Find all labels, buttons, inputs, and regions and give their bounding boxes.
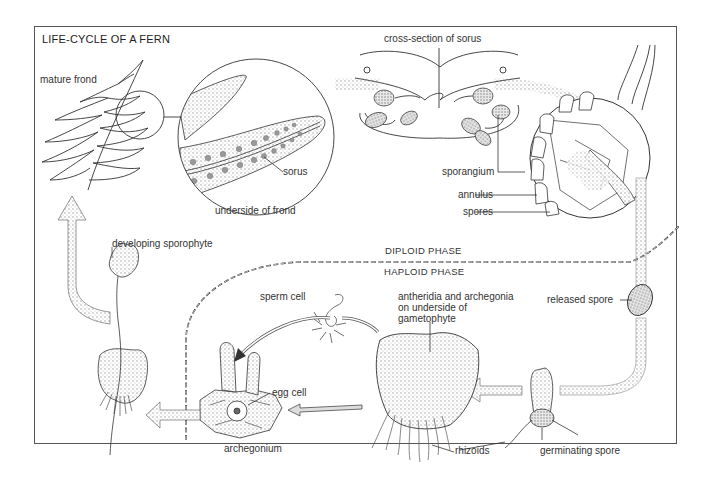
gametophyte-drawing [372,322,479,462]
label-egg-cell: egg cell [272,387,306,398]
germinating-spore-drawing [505,368,578,448]
connector-band [335,78,380,90]
label-released-spore: released spore [547,294,613,305]
arrow-to-sporophyte [146,402,200,428]
fern-lifecycle-illustration [0,0,712,483]
connector-band-vertical [636,178,646,288]
label-antheridia-line3: gametophyte [398,313,456,324]
arrow-to-mature-frond [58,196,110,324]
label-cross-section-of-sorus: cross-section of sorus [384,33,481,44]
label-sperm-cell: sperm cell [260,291,306,302]
label-underside-of-frond: underside of frond [215,205,296,216]
label-diploid-phase: DIPLOID PHASE [385,245,462,256]
young-sporophyte-drawing [98,244,147,455]
label-antheridia-line2: on underside of [398,302,467,313]
label-germinating-spore: germinating spore [540,445,620,456]
label-sporangium: sporangium [442,166,494,177]
label-haploid-phase: HAPLOID PHASE [384,266,464,277]
sorus-cross-section [355,48,520,148]
label-archegonium: archegonium [224,443,282,454]
label-rhizoids: rhizoids [455,445,489,456]
label-mature-frond: mature frond [40,74,97,85]
label-developing-sporophyte: developing sporophyte [112,238,213,249]
label-annulus: annulus [458,189,493,200]
label-spores: spores [463,206,493,217]
diagram-title: LIFE-CYCLE OF A FERN [42,34,170,45]
label-sorus: sorus [283,166,307,177]
label-antheridia-line1: antheridia and archegonia [398,291,514,302]
frond-underside-magnified [178,59,334,215]
arrow-to-archegonium [288,404,362,416]
